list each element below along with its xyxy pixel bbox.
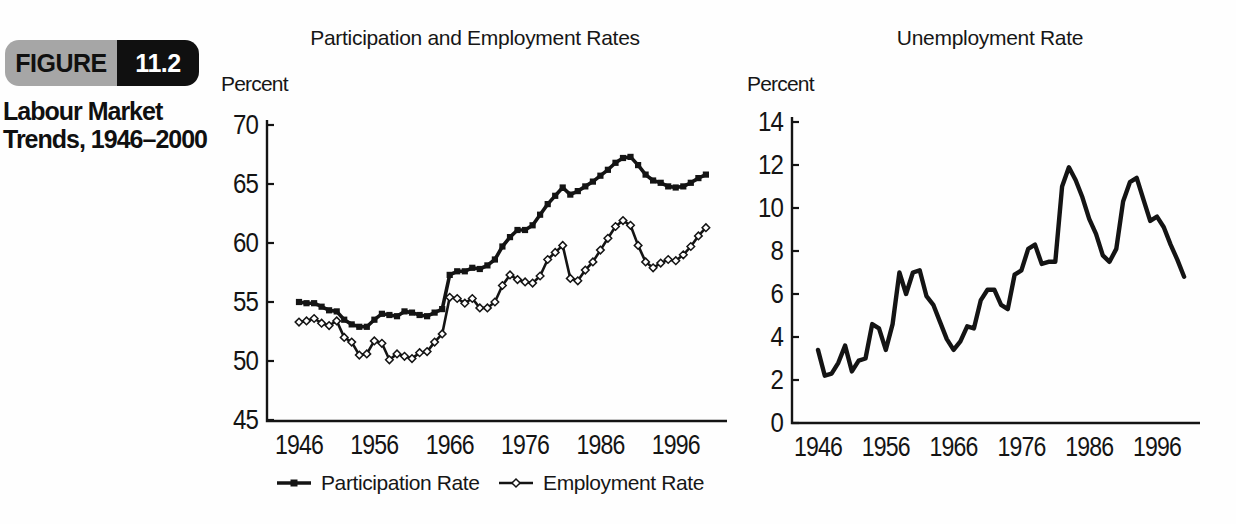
figure-caption-line1: Labour Market: [3, 97, 207, 125]
figure-badge: FIGURE 11.2: [5, 40, 199, 86]
unemployment-chart-title: Unemployment Rate: [760, 26, 1220, 50]
participation-employment-chart: 455055606570194619561966197619861996: [220, 60, 740, 480]
figure-badge-number: 11.2: [117, 40, 199, 86]
svg-text:55: 55: [233, 287, 258, 317]
svg-text:45: 45: [233, 405, 258, 435]
chart-legend: Participation Rate Employment Rate: [276, 471, 704, 495]
figure-panel: FIGURE 11.2 Labour Market Trends, 1946–2…: [0, 0, 1236, 524]
svg-text:1966: 1966: [426, 430, 474, 460]
svg-text:1956: 1956: [862, 432, 910, 462]
figure-badge-label: FIGURE: [5, 40, 117, 86]
svg-text:60: 60: [233, 228, 258, 258]
svg-text:14: 14: [758, 107, 784, 137]
svg-text:1966: 1966: [930, 432, 978, 462]
svg-text:4: 4: [771, 322, 784, 352]
figure-caption-line2: Trends, 1946–2000: [3, 125, 207, 153]
svg-text:1996: 1996: [652, 430, 700, 460]
svg-text:0: 0: [771, 408, 784, 438]
svg-text:2: 2: [771, 365, 784, 395]
figure-caption: Labour Market Trends, 1946–2000: [3, 97, 207, 153]
legend-item-employment: Employment Rate: [498, 471, 704, 495]
svg-text:12: 12: [758, 150, 783, 180]
unemployment-chart: 02468101214194619561966197619861996: [745, 60, 1236, 480]
svg-text:1986: 1986: [576, 430, 624, 460]
svg-text:1976: 1976: [501, 430, 549, 460]
svg-text:1946: 1946: [275, 430, 323, 460]
legend-item-participation: Participation Rate: [276, 471, 480, 495]
svg-text:1956: 1956: [350, 430, 398, 460]
legend-label-employment: Employment Rate: [543, 471, 704, 495]
svg-text:1996: 1996: [1133, 432, 1181, 462]
svg-text:1986: 1986: [1065, 432, 1113, 462]
svg-text:6: 6: [771, 279, 784, 309]
open-diamond-marker-icon: [498, 476, 534, 490]
legend-label-participation: Participation Rate: [321, 471, 480, 495]
participation-employment-chart-title: Participation and Employment Rates: [245, 26, 705, 50]
svg-text:1946: 1946: [794, 432, 842, 462]
svg-text:1976: 1976: [997, 432, 1045, 462]
filled-square-marker-icon: [276, 476, 312, 490]
svg-text:65: 65: [233, 169, 258, 199]
svg-text:8: 8: [771, 236, 784, 266]
svg-text:10: 10: [758, 193, 783, 223]
svg-text:70: 70: [233, 110, 258, 140]
svg-text:50: 50: [233, 346, 258, 376]
